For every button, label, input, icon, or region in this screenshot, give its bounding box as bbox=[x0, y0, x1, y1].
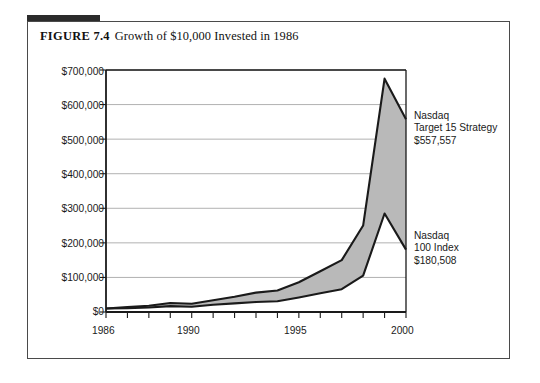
figure-container: FIGURE 7.4Growth of $10,000 Invested in … bbox=[0, 0, 540, 383]
chart-plot bbox=[0, 0, 540, 383]
axis-ticks bbox=[100, 70, 406, 318]
series-band-fill bbox=[106, 79, 406, 309]
